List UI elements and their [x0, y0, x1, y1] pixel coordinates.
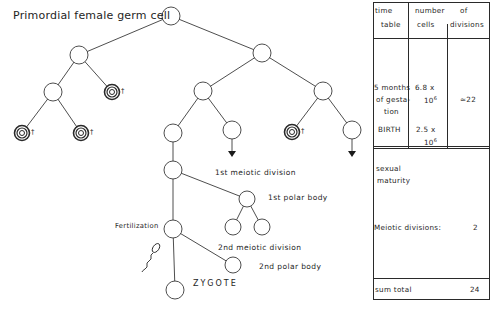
table-divider [373, 38, 490, 39]
table-divider [373, 148, 490, 149]
dead-mark-icon: † [301, 127, 305, 135]
row2-cells-power: 106 [424, 135, 437, 148]
dead-mark-icon: † [121, 87, 125, 95]
maturity-line2: maturity [377, 175, 410, 186]
header-time: time [375, 5, 392, 16]
sum-total-label: sum total [375, 284, 412, 295]
header-cells: cells [417, 19, 435, 30]
degenerating-cell-icon [285, 125, 300, 140]
dead-mark-icon: † [90, 128, 94, 136]
arrow-down-icon [228, 151, 356, 157]
label-fertilization: Fertilization [115, 222, 159, 230]
label-1st-meiotic-division: 1st meiotic division [215, 168, 296, 177]
row2-time: BIRTH [378, 124, 401, 135]
table-divider [447, 24, 448, 148]
meiotic-divisions-label: Meiotic divisions: [374, 222, 441, 233]
row1-time-line1: 5 months [374, 82, 410, 93]
row1-cells-power: 106 [424, 93, 437, 106]
divisions-estimate: ≈22 [460, 94, 476, 105]
header-table: table [381, 19, 401, 30]
degenerating-cell-icon [15, 126, 30, 141]
summary-table [373, 2, 490, 300]
diagram-title: Primordial female germ cell [13, 9, 170, 22]
row1-cells-mantissa: 6.8 x [415, 82, 434, 93]
row1-time-line3: tion [384, 106, 399, 117]
sum-total-value: 24 [470, 284, 480, 295]
label-2nd-polar-body: 2nd polar body [259, 262, 321, 271]
table-divider [373, 278, 490, 279]
row2-cells-mantissa: 2.5 x [416, 124, 435, 135]
meiotic-divisions-value: 2 [473, 222, 478, 233]
header-number: number [415, 5, 445, 16]
label-2nd-meiotic-division: 2nd meiotic division [218, 243, 302, 252]
header-of: of [460, 5, 468, 16]
row1-time-line2: of gesta- [376, 94, 410, 105]
dead-mark-icon: † [31, 128, 35, 136]
cell-nodes [44, 7, 361, 299]
header-divisions: divisions [450, 19, 484, 30]
degenerating-cell-icon [74, 126, 89, 141]
sperm-icon [142, 242, 161, 272]
label-zygote: ZYGOTE [193, 279, 238, 288]
table-divider [408, 2, 409, 148]
label-1st-polar-body: 1st polar body [268, 193, 328, 202]
maturity-line1: sexual [376, 163, 401, 174]
degenerating-cell-icon [105, 85, 120, 100]
